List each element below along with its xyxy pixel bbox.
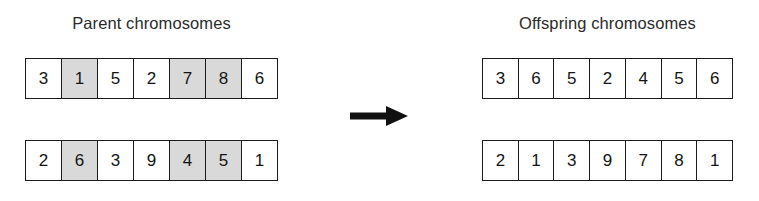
gene-cell: 4: [170, 141, 206, 180]
chromosome-offspring-1: 3652456: [482, 58, 733, 99]
chromosome-offspring-2: 2139781: [482, 140, 733, 181]
gene-cell: 6: [697, 59, 732, 98]
chromosome-parent-2: 2639451: [25, 140, 278, 181]
parent-chromosomes-title: Parent chromosomes: [25, 14, 278, 33]
offspring-chromosomes-title: Offspring chromosomes: [482, 14, 733, 33]
gene-cell: 1: [62, 59, 98, 98]
gene-cell: 6: [62, 141, 98, 180]
gene-cell: 4: [626, 59, 662, 98]
gene-cell: 1: [697, 141, 732, 180]
crossover-diagram: Parent chromosomes Offspring chromosomes…: [0, 0, 759, 201]
gene-cell: 5: [554, 59, 590, 98]
gene-cell: 3: [554, 141, 590, 180]
gene-cell: 1: [519, 141, 555, 180]
gene-cell: 8: [206, 59, 242, 98]
chromosome-parent-1: 3152786: [25, 58, 278, 99]
gene-cell: 5: [206, 141, 242, 180]
gene-cell: 3: [483, 59, 519, 98]
gene-cell: 3: [26, 59, 62, 98]
gene-cell: 2: [134, 59, 170, 98]
gene-cell: 9: [134, 141, 170, 180]
gene-cell: 2: [590, 59, 626, 98]
crossover-arrow-icon: [350, 104, 408, 128]
gene-cell: 5: [98, 59, 134, 98]
gene-cell: 7: [626, 141, 662, 180]
gene-cell: 7: [170, 59, 206, 98]
gene-cell: 6: [519, 59, 555, 98]
gene-cell: 8: [662, 141, 698, 180]
gene-cell: 2: [26, 141, 62, 180]
gene-cell: 2: [483, 141, 519, 180]
gene-cell: 5: [662, 59, 698, 98]
gene-cell: 6: [242, 59, 277, 98]
gene-cell: 3: [98, 141, 134, 180]
gene-cell: 1: [242, 141, 277, 180]
gene-cell: 9: [590, 141, 626, 180]
